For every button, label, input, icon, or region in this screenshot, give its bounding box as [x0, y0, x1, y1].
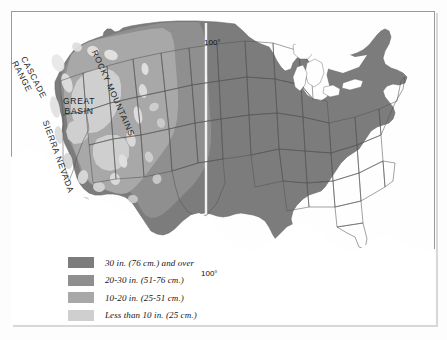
legend-swatch-20-30	[68, 275, 94, 286]
legend-row: Less than 10 in. (25 cm.)	[68, 307, 197, 325]
legend-label-over-30: 30 in. (76 cm.) and over	[105, 258, 194, 268]
legend-row: 30 in. (76 cm.) and over	[68, 254, 197, 272]
meridian-label-bottom: 100°	[201, 269, 218, 278]
label-great-basin: GREAT BASIN	[63, 97, 95, 116]
map-legend: 30 in. (76 cm.) and over 20-30 in. (51-7…	[68, 254, 197, 324]
legend-label-under-10: Less than 10 in. (25 cm.)	[105, 310, 197, 320]
legend-row: 20-30 in. (51-76 cm.)	[68, 272, 197, 290]
legend-swatch-under-10	[68, 310, 94, 321]
legend-swatch-over-30	[68, 257, 94, 268]
legend-label-10-20: 10-20 in. (25-51 cm.)	[105, 293, 184, 303]
meridian-label-top: 100°	[204, 38, 221, 47]
great-lakes	[289, 36, 367, 97]
map-canvas: CASCADE RANGE ROCKY MOUNTAINS GREAT BASI…	[11, 11, 435, 324]
figure-page: CASCADE RANGE ROCKY MOUNTAINS GREAT BASI…	[0, 0, 447, 340]
legend-swatch-10-20	[68, 292, 94, 303]
legend-label-20-30: 20-30 in. (51-76 cm.)	[105, 275, 184, 285]
legend-row: 10-20 in. (25-51 cm.)	[68, 289, 197, 307]
